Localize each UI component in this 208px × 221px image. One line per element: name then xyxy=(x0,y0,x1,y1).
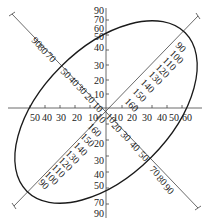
v-bottom-label: 40 xyxy=(94,169,104,180)
diag-lr-label: 40 xyxy=(128,139,143,154)
v-bottom-label: 70 xyxy=(94,197,104,208)
h-left-label: 20 xyxy=(72,112,82,123)
h-right-label: 50 xyxy=(169,112,179,123)
v-bottom-label: 30 xyxy=(94,155,104,166)
h-right-label: 30 xyxy=(142,112,152,123)
v-top-label: 30 xyxy=(94,60,104,71)
v-top-label: 40 xyxy=(94,42,104,53)
h-right-label: 40 xyxy=(157,112,167,123)
h-left-label: 30 xyxy=(56,112,66,123)
h-left-label: 50 xyxy=(30,112,40,123)
h-right-label: 60 xyxy=(182,112,192,123)
h-left-label: 40 xyxy=(42,112,52,123)
diagram-canvas: 10 20 30 40 50 60 10 20 30 40 50 10 20 3… xyxy=(0,0,208,221)
v-bottom-label: 90 xyxy=(94,208,104,219)
v-top-label: 20 xyxy=(94,75,104,86)
diag-lr-label: 30 xyxy=(119,129,134,144)
v-bottom-label: 50 xyxy=(94,180,104,191)
h-right-label: 20 xyxy=(127,112,137,123)
diag-lr-label: 50 xyxy=(137,149,152,164)
v-top-label: 90 xyxy=(94,5,104,16)
